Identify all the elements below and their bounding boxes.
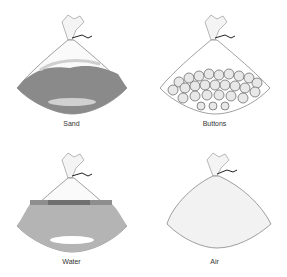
panel-air: Air xyxy=(143,138,286,276)
sand-bag-icon xyxy=(0,0,143,138)
panel-water: Water xyxy=(0,138,143,276)
water-bag-icon xyxy=(0,138,143,277)
air-bag-icon xyxy=(143,138,287,277)
panel-buttons: Buttons xyxy=(143,0,286,138)
label-air: Air xyxy=(143,258,286,265)
buttons-bag-icon xyxy=(143,0,287,138)
label-buttons: Buttons xyxy=(143,120,286,127)
label-sand: Sand xyxy=(0,120,143,127)
panel-sand: Sand xyxy=(0,0,143,138)
label-water: Water xyxy=(0,258,143,265)
